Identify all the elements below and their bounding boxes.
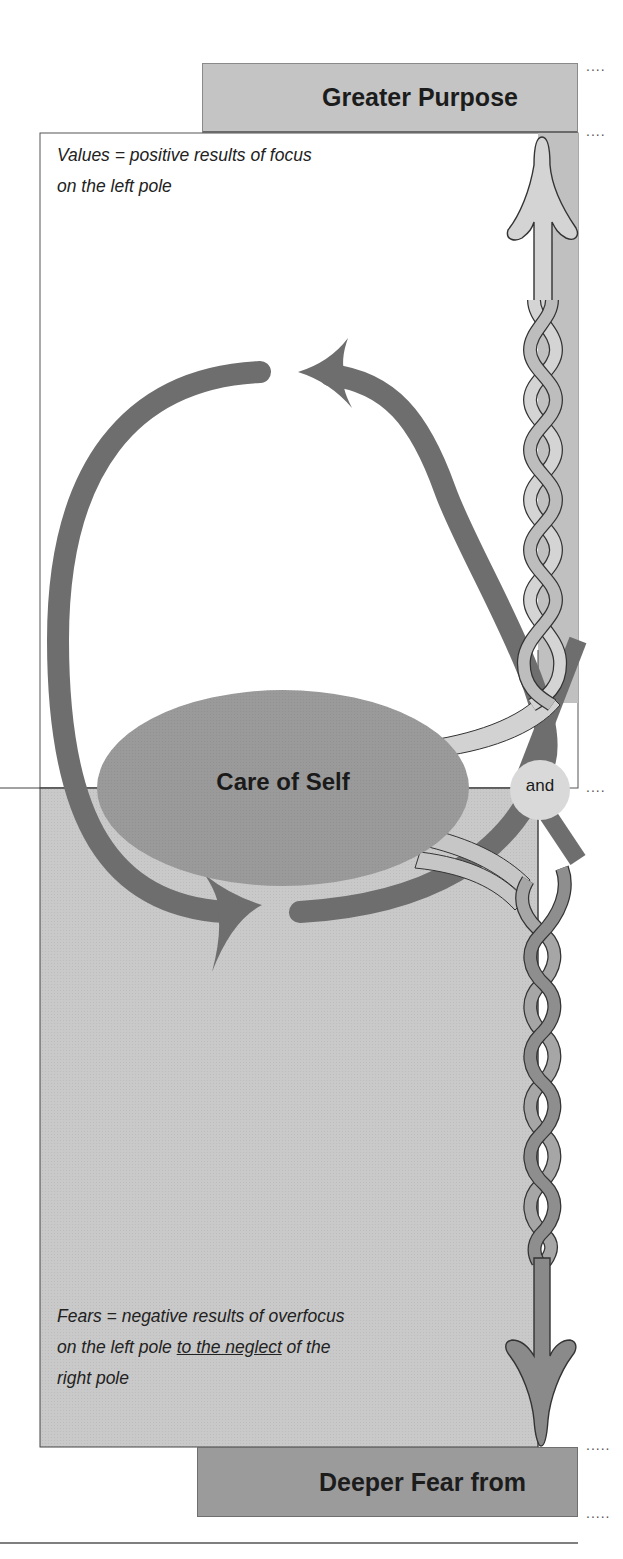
leader-dots-bottom-2: ..... — [586, 1505, 623, 1521]
fears-note-underlined: to the neglect — [177, 1337, 282, 1357]
and-label: and — [510, 776, 570, 796]
leader-dots-bottom-1: ..... — [586, 1437, 623, 1453]
diagonal-strand-lower — [548, 815, 578, 860]
leader-dots-top-2: .... — [586, 123, 623, 139]
values-note: Values = positive results of focus on th… — [57, 140, 477, 202]
fears-note-line-1: Fears = negative results of overfocus — [57, 1301, 497, 1332]
polarity-map-diagram: Greater Purpose Values = positive result… — [0, 0, 623, 1559]
pole-label: Care of Self — [140, 768, 426, 796]
leader-dots-middle: .... — [586, 779, 623, 795]
fears-note: Fears = negative results of overfocus on… — [57, 1301, 497, 1394]
values-note-line-1: Values = positive results of focus — [57, 140, 477, 171]
deeper-fear-title: Deeper Fear from — [319, 1468, 526, 1497]
fears-note-line-2: on the left pole to the neglect of the — [57, 1332, 497, 1363]
greater-purpose-box: Greater Purpose — [202, 63, 578, 133]
values-note-line-2: on the left pole — [57, 171, 477, 202]
greater-purpose-title: Greater Purpose — [322, 83, 518, 112]
fears-note-line-2-post: of the — [282, 1337, 331, 1357]
fears-note-line-3: right pole — [57, 1363, 497, 1394]
leader-dots-top-1: .... — [586, 58, 623, 74]
upper-quadrant — [40, 133, 578, 788]
fears-note-line-2-pre: on the left pole — [57, 1337, 177, 1357]
deeper-fear-box: Deeper Fear from — [197, 1447, 578, 1517]
